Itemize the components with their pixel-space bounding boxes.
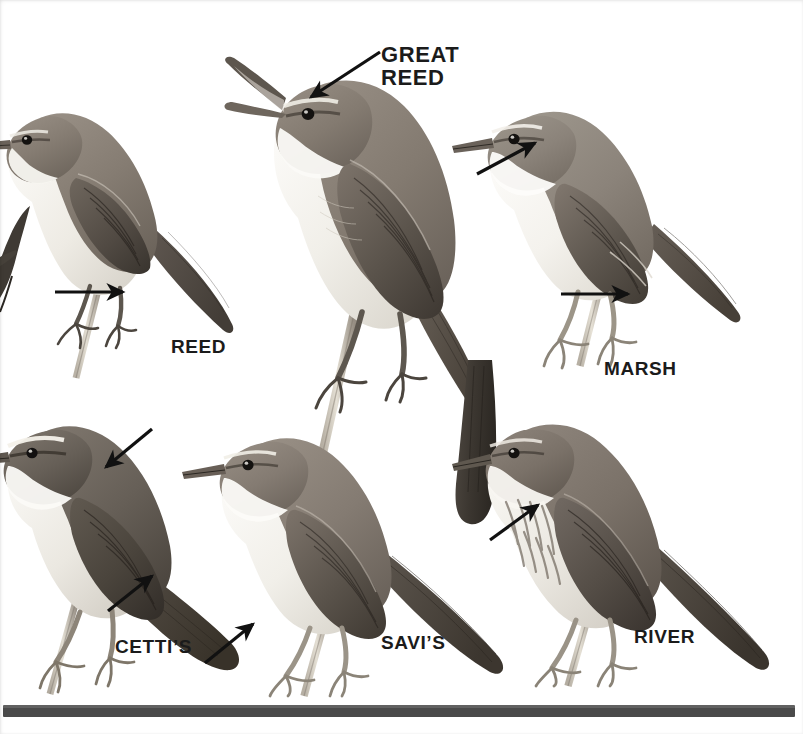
species-label-savis: SAVI’S	[381, 633, 446, 653]
bird-marsh-warbler	[452, 76, 772, 366]
eye	[508, 134, 519, 144]
eye	[26, 448, 37, 458]
species-label-reed: REED	[171, 337, 226, 357]
bill	[452, 138, 494, 153]
tail	[644, 224, 740, 322]
reed-leaf-fragment	[0, 202, 56, 322]
species-label-great-reed: GREAT REED	[381, 43, 459, 90]
illustration-plate: GREAT REED REED MARSH CETTI’S SAVI’S RIV…	[0, 0, 803, 734]
species-label-marsh: MARSH	[604, 359, 677, 379]
bottom-rule-bar	[3, 705, 795, 717]
eye	[242, 460, 253, 470]
eye	[22, 135, 32, 145]
bill	[182, 464, 226, 479]
feet	[58, 324, 136, 348]
feet	[536, 664, 636, 686]
feet	[270, 672, 368, 696]
species-label-river: RIVER	[634, 627, 695, 647]
species-label-cettis: CETTI’S	[115, 637, 192, 657]
tail	[146, 230, 233, 333]
reed-stem	[50, 594, 78, 694]
bird-river-warbler	[446, 396, 796, 686]
eye	[302, 108, 315, 120]
eye	[508, 448, 519, 458]
